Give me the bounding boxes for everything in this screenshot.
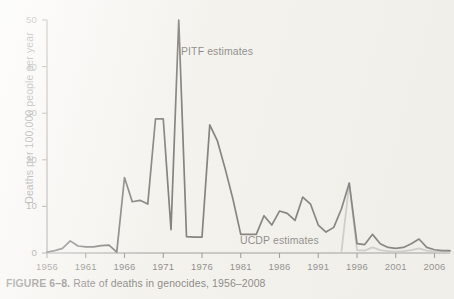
x-tick-label: 1981 — [221, 261, 261, 272]
y-tick-label: 10 — [11, 200, 37, 211]
x-tick-label: 1986 — [260, 261, 300, 272]
y-tick-label: 30 — [11, 107, 37, 118]
figure-caption-text: Rate of deaths in genocides, 1956–2008 — [73, 277, 265, 289]
ucdp-series-line — [342, 183, 451, 252]
y-tick-label: 40 — [11, 61, 37, 72]
figure-container: Deaths per 100,000 people per year 01020… — [0, 0, 454, 299]
plot-area: Deaths per 100,000 people per year 01020… — [0, 0, 454, 270]
figure-caption-number: FIGURE 6–8. — [6, 277, 70, 289]
x-tick-label: 1961 — [66, 261, 106, 272]
genocide-death-rate-chart — [0, 0, 454, 270]
x-tick-label: 2001 — [376, 261, 416, 272]
x-tick-label: 1996 — [337, 261, 377, 272]
y-tick-label: 50 — [11, 14, 37, 25]
x-tick-label: 1991 — [298, 261, 338, 272]
x-tick-label: 1956 — [27, 261, 67, 272]
y-tick-label: 0 — [11, 247, 37, 258]
x-tick-label: 1971 — [143, 261, 183, 272]
x-tick-marks — [47, 253, 435, 258]
x-tick-label: 1966 — [105, 261, 145, 272]
x-tick-label: 1976 — [182, 261, 222, 272]
y-tick-marks — [42, 20, 47, 253]
x-tick-label: 2006 — [415, 261, 454, 272]
figure-caption: FIGURE 6–8. Rate of deaths in genocides,… — [6, 277, 266, 289]
y-tick-label: 20 — [11, 154, 37, 165]
ucdp-series-label: UCDP estimates — [240, 234, 319, 246]
pitf-series-label: PITF estimates — [181, 45, 253, 57]
